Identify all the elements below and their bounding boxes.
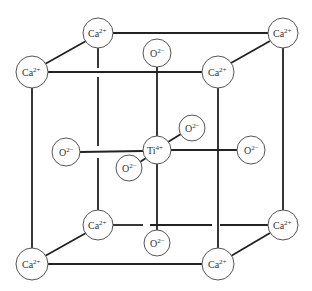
atom-ca-back-top-left: Ca2+ (83, 18, 113, 48)
atom-ca-back-top-right: Ca2+ (268, 18, 298, 48)
atom-o-right: O2− (237, 136, 265, 164)
atom-ca-front-bottom-right: Ca2+ (202, 248, 234, 280)
bond-ti-o-back (168, 134, 181, 142)
atom-ca-front-bottom-left: Ca2+ (16, 248, 48, 280)
atom-o-left: O2− (52, 138, 80, 166)
edge-bottom-right (231, 233, 270, 256)
atom-ti-center: Ti4+ (143, 136, 171, 164)
edge-top-left (45, 41, 86, 64)
atom-ca-back-bottom-right: Ca2+ (268, 210, 298, 240)
atom-o-bottom: O2− (144, 230, 170, 256)
edge-top-right (231, 41, 270, 63)
atom-o-top: O2− (143, 39, 171, 67)
atom-o-front: O2− (116, 155, 142, 181)
atom-o-back: O2− (179, 115, 205, 141)
atom-ca-front-top-left: Ca2+ (16, 56, 48, 88)
bond-ti-o-front (140, 158, 146, 162)
edge-bottom-left (45, 233, 86, 256)
atom-ca-back-bottom-left: Ca2+ (83, 210, 113, 240)
perovskite-unit-cell: Ca2+Ca2+Ca2+Ca2+O2−O2−Ti4+O2−O2−O2−Ca2+C… (0, 0, 312, 291)
bond-ti-o-left (80, 151, 143, 152)
atom-ca-front-top-right: Ca2+ (202, 56, 234, 88)
